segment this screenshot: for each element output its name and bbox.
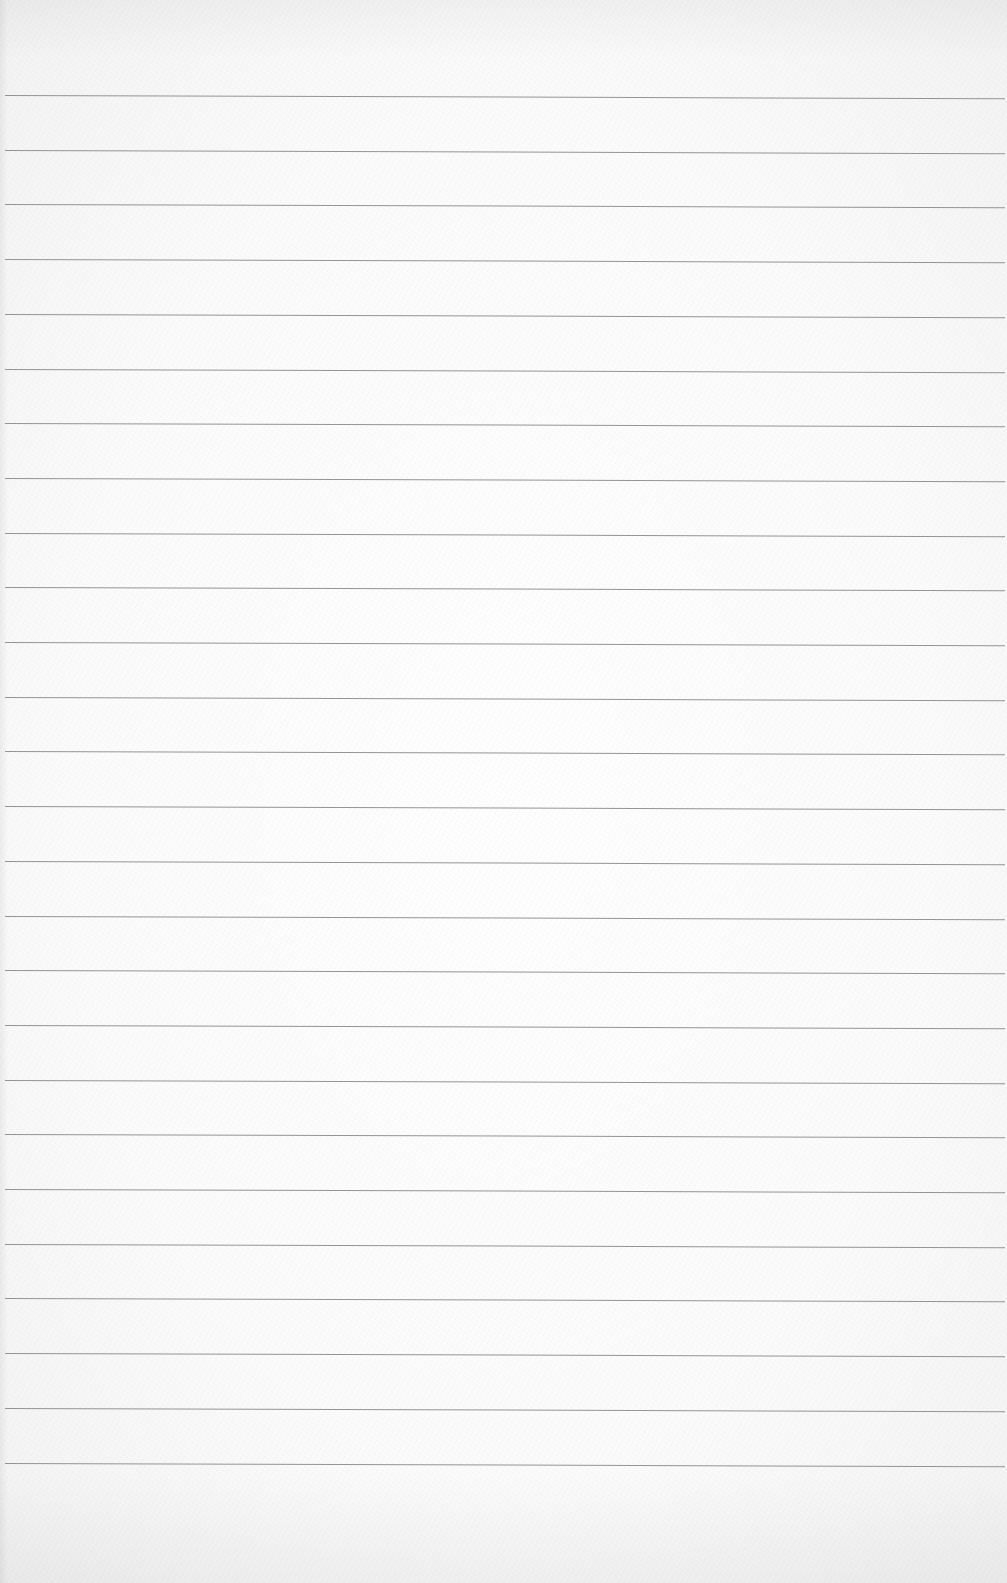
ruled-line xyxy=(5,1080,1005,1084)
ruled-line xyxy=(5,423,1005,427)
paper-left-shading xyxy=(0,0,8,1583)
ruled-line xyxy=(5,697,1005,701)
ruled-line xyxy=(5,369,1005,373)
ruled-line xyxy=(5,1463,1005,1467)
ruled-line xyxy=(5,1189,1005,1193)
paper-top-shading xyxy=(0,0,1007,60)
lined-paper-sheet xyxy=(0,0,1007,1583)
ruled-line xyxy=(5,1244,1005,1248)
ruled-line xyxy=(5,861,1005,865)
ruled-line xyxy=(5,150,1005,154)
ruled-line xyxy=(5,478,1005,482)
ruled-line xyxy=(5,1408,1005,1412)
paper-bottom-shading xyxy=(0,1473,1007,1583)
ruled-line xyxy=(5,970,1005,974)
ruled-line xyxy=(5,1353,1005,1357)
ruled-line xyxy=(5,806,1005,810)
ruled-line xyxy=(5,95,1005,99)
ruled-line xyxy=(5,751,1005,755)
ruled-line xyxy=(5,587,1005,591)
ruled-line xyxy=(5,259,1005,263)
ruled-line xyxy=(5,1134,1005,1138)
ruled-line xyxy=(5,642,1005,646)
ruled-line xyxy=(5,1298,1005,1302)
ruled-line xyxy=(5,1025,1005,1029)
ruled-line xyxy=(5,314,1005,318)
ruled-line xyxy=(5,533,1005,537)
ruled-line xyxy=(5,204,1005,208)
ruled-line xyxy=(5,916,1005,920)
